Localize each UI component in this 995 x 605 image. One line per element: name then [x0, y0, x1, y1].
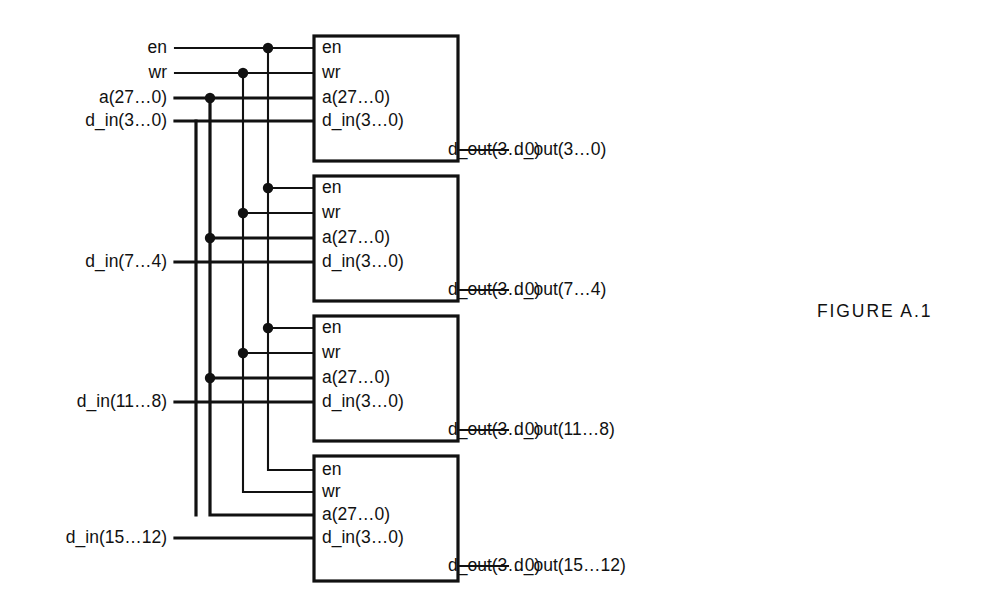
- trunk-a: [210, 98, 314, 515]
- external-input-label-3: d_in(3…0): [85, 110, 167, 131]
- memory-block-3-port-in-2: a(27…0): [322, 367, 390, 387]
- memory-block-1-output-label: d_out(3…0): [514, 139, 606, 160]
- memory-block-2-port-in-3: d_in(3…0): [322, 251, 404, 272]
- memory-block-1-port-in-3: d_in(3…0): [322, 110, 404, 131]
- wire-junction-1: [238, 68, 248, 78]
- external-input-label-1: wr: [148, 62, 168, 82]
- external-input-label-0: en: [148, 37, 167, 57]
- memory-block-4-port-in-1: wr: [321, 481, 341, 501]
- memory-block-4-port-in-3: d_in(3…0): [322, 527, 404, 548]
- external-input-label-4: d_in(7…4): [85, 251, 167, 272]
- wire-junction-4: [238, 208, 248, 218]
- memory-block-2-port-in-2: a(27…0): [322, 227, 390, 247]
- memory-block-4-port-in-2: a(27…0): [322, 504, 390, 524]
- wire-junction-6: [263, 323, 273, 333]
- wire-junction-7: [238, 348, 248, 358]
- memory-block-4-port-in-0: en: [322, 459, 341, 479]
- wire-junction-0: [263, 43, 273, 53]
- memory-block-3-port-in-1: wr: [321, 342, 341, 362]
- memory-block-3-port-in-0: en: [322, 317, 341, 337]
- memory-block-1-port-in-2: a(27…0): [322, 87, 390, 107]
- wire-junction-2: [205, 93, 215, 103]
- trunk-wr: [243, 73, 314, 492]
- wire-junction-3: [263, 183, 273, 193]
- wire-junction-8: [205, 373, 215, 383]
- external-input-label-2: a(27…0): [99, 87, 167, 107]
- external-input-label-6: d_in(15…12): [66, 527, 167, 548]
- memory-block-2-port-in-0: en: [322, 177, 341, 197]
- memory-block-2-output-label: d_out(7…4): [514, 279, 606, 300]
- memory-block-3-output-label: d_out(11…8): [514, 419, 615, 440]
- external-input-label-5: d_in(11…8): [77, 391, 167, 412]
- memory-block-3-port-in-3: d_in(3…0): [322, 391, 404, 412]
- memory-block-2-port-in-1: wr: [321, 202, 341, 222]
- memory-block-4-output-label: d_out(15…12): [514, 555, 626, 576]
- memory-block-1-port-in-1: wr: [321, 62, 341, 82]
- figure-container: enwra(27…0)d_in(3…0)d_in(7…4)d_in(11…8)d…: [0, 0, 995, 605]
- figure-caption: FIGURE A.1: [817, 301, 932, 322]
- memory-block-1-port-in-0: en: [322, 37, 341, 57]
- wire-junction-5: [205, 233, 215, 243]
- trunk-en: [268, 48, 314, 470]
